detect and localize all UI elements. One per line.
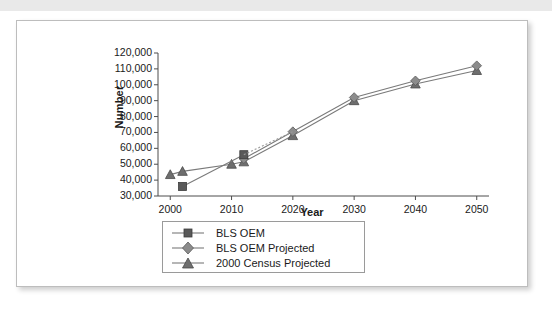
x-axis-tick-label: 2040 [385, 203, 445, 215]
legend-item: 2000 Census Projected [163, 255, 364, 270]
legend-item: BLS OEM Projected [163, 240, 364, 255]
y-axis-tick-label: 40,000 [86, 173, 152, 185]
y-axis-tick-label: 60,000 [86, 141, 152, 153]
page-top-bar [0, 0, 552, 11]
x-axis-tick-label: 2000 [140, 203, 200, 215]
x-axis-tick-label: 2020 [263, 203, 323, 215]
figure-panel: Number Year 30,00040,00050,00060,00070,0… [16, 20, 528, 287]
x-axis-tick-label: 2050 [447, 203, 507, 215]
legend-item: BLS OEM [163, 225, 364, 240]
y-axis-tick-label: 120,000 [86, 46, 152, 58]
y-axis-tick-label: 80,000 [86, 110, 152, 122]
chart-figure: Number Year 30,00040,00050,00060,00070,0… [17, 21, 529, 288]
legend-key-square-icon [170, 226, 206, 240]
y-axis-tick-label: 50,000 [86, 157, 152, 169]
legend-label: BLS OEM Projected [216, 242, 314, 254]
x-axis-tick-label: 2030 [324, 203, 384, 215]
x-axis-tick-label: 2010 [202, 203, 262, 215]
y-axis-tick-label: 30,000 [86, 189, 152, 201]
legend-key-diamond-icon [170, 241, 206, 255]
y-axis-tick-label: 100,000 [86, 78, 152, 90]
y-axis-tick-label: 90,000 [86, 94, 152, 106]
y-axis-tick-label: 70,000 [86, 125, 152, 137]
screenshot-root: Number Year 30,00040,00050,00060,00070,0… [0, 0, 552, 314]
legend-label: BLS OEM [216, 227, 265, 239]
legend-label: 2000 Census Projected [216, 257, 330, 269]
chart-legend: BLS OEM BLS OEM Projected 2000 Census Pr… [162, 221, 365, 273]
y-axis-tick-label: 110,000 [86, 62, 152, 74]
legend-key-triangle-icon [170, 256, 206, 270]
